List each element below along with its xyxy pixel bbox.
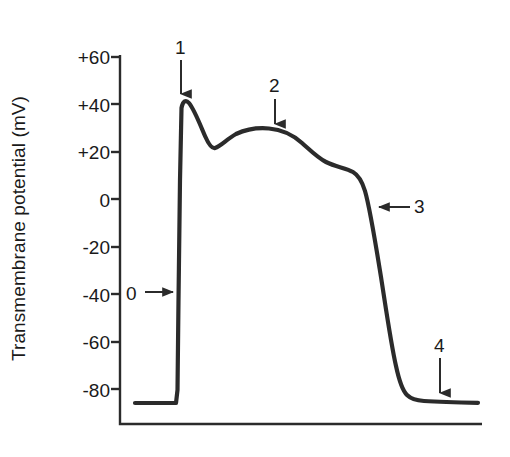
axis-spine bbox=[120, 55, 482, 424]
plot-area bbox=[0, 0, 510, 457]
y-axis-ticks bbox=[111, 57, 120, 389]
action-potential-figure: Transmembrane potential (mV) +60 +40 +20… bbox=[0, 0, 510, 457]
action-potential-curve bbox=[135, 101, 478, 403]
